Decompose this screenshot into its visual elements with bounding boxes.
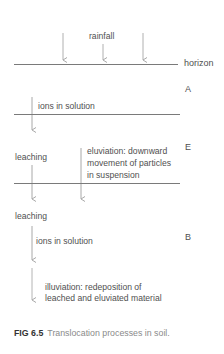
figure-caption: FIG 6.5Translocation processes in soil. [14,328,170,338]
eluviation-text-line3: in suspension [87,170,140,180]
ions-in-solution-a-label: ions in solution [38,101,95,111]
horizon-e-label: E [185,142,191,152]
illuviation-text-line1: illuviation: redeposition of [45,282,142,292]
horizon-a-label: A [185,84,191,94]
eluviation-text-line2: movement of particles [87,158,171,168]
illuviation-text-line2: leached and eluviated material [45,293,162,303]
leaching-e-label: leaching [15,152,47,162]
figure-number: FIG 6.5 [14,328,43,338]
eluviation-text-line1: eluviation: downward [87,146,167,156]
horizon-label: horizon [184,58,214,68]
figure-caption-text: Translocation processes in soil. [47,328,169,338]
ions-in-solution-b-label: ions in solution [36,236,93,246]
rainfall-label: rainfall [89,31,114,41]
e-b-boundary-line [14,183,180,184]
horizon-b-label: B [185,232,191,242]
a-e-boundary-line [14,114,180,115]
surface-horizon-line [14,64,178,65]
leaching-b-label: leaching [15,211,47,221]
